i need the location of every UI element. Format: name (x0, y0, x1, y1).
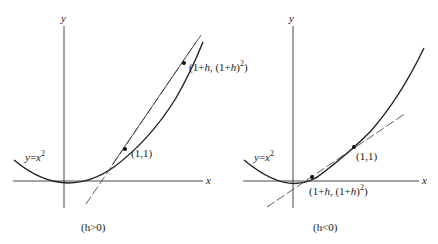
parabola-curve (244, 48, 424, 184)
point-1-1-label: (1,1) (131, 147, 152, 160)
point-1-1 (352, 145, 356, 149)
x-axis-label: x (421, 174, 427, 186)
point-1-1 (123, 147, 127, 151)
condition-label: (h<0) (313, 221, 338, 234)
condition-label: (h>0) (81, 221, 106, 234)
x-axis-label: x (205, 174, 211, 186)
y-axis-label: y (60, 12, 66, 24)
curve-label: y=x2 (253, 149, 274, 163)
parabola-curve (14, 42, 203, 183)
panel-right: x y y=x2 (1,1) (1+h, (1+h)2) (h<0) (243, 12, 427, 234)
point-1plush-label: (1+h, (1+h)2) (309, 183, 368, 198)
point-1-1-label: (1,1) (356, 150, 377, 163)
point-1plush (182, 61, 186, 65)
tangent-line (86, 42, 196, 204)
point-1plush (310, 175, 314, 179)
curve-label: y=x2 (24, 149, 45, 163)
point-1plush-label: (1+h, (1+h)2) (189, 59, 248, 74)
y-axis-label: y (288, 12, 294, 24)
figure-canvas: x y y=x2 (1,1) (1+h, (1+h)2) (h>0) x y (0, 0, 438, 244)
panel-left: x y y=x2 (1,1) (1+h, (1+h)2) (h>0) (13, 12, 248, 234)
